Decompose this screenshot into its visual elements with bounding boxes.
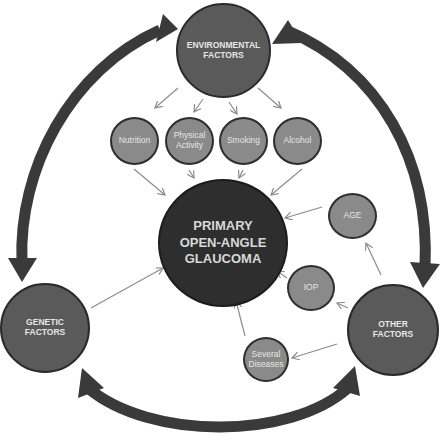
genetic-factors-node (0, 283, 90, 373)
alcohol-node (273, 117, 322, 165)
several-diseases-node (243, 337, 289, 382)
environmental-factors-node (176, 3, 271, 98)
other-factors-node (347, 284, 439, 376)
primary-open-angle-glaucoma-node (158, 179, 288, 307)
age-node (328, 193, 377, 239)
arc-arrow-genetic-other (78, 366, 360, 427)
smoking-node (219, 117, 268, 165)
iop-node (287, 265, 335, 311)
genetic-to-center-arrow (91, 268, 163, 308)
nutrition-node (110, 117, 159, 165)
physical-activity-node (165, 117, 214, 165)
